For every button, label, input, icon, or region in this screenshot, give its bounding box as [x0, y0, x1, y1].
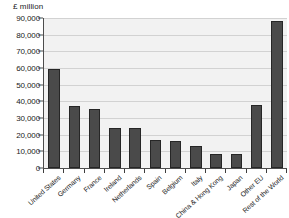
gridline	[44, 35, 287, 36]
y-axis-tick-label: 60,000	[16, 64, 40, 73]
x-axis-tick	[246, 169, 247, 173]
y-axis-tick-label: 90,000	[16, 14, 40, 23]
y-axis-tick-label: 10,000	[16, 147, 40, 156]
bar	[231, 154, 242, 168]
x-axis-tick	[104, 169, 105, 173]
bar	[251, 105, 262, 168]
gridline	[44, 85, 287, 86]
bar	[48, 69, 59, 168]
y-axis-unit-label: £ million	[13, 2, 43, 11]
x-axis-tick-label: Belgium	[160, 174, 183, 196]
gridline	[44, 101, 287, 102]
x-axis-tick-label: France	[82, 174, 102, 193]
bar	[271, 21, 282, 168]
x-axis-tick	[286, 169, 287, 173]
x-axis-tick	[144, 169, 145, 173]
plot-inner	[44, 18, 287, 168]
x-axis-tick	[124, 169, 125, 173]
x-axis-tick-label: United States	[27, 174, 62, 206]
y-axis-tick-label: 80,000	[16, 30, 40, 39]
x-axis-tick	[185, 169, 186, 173]
bar-chart: £ million 010,00020,00030,00040,00050,00…	[0, 0, 289, 218]
x-axis-tick	[43, 169, 44, 173]
y-axis-tick-label: 20,000	[16, 130, 40, 139]
bar	[69, 106, 80, 168]
y-axis-tick-label: 70,000	[16, 47, 40, 56]
x-axis-tick-label: Italy	[190, 174, 204, 187]
bar	[109, 128, 120, 169]
bar	[210, 154, 221, 169]
bar	[190, 146, 201, 168]
x-axis-tick-label: Spain	[145, 174, 163, 191]
y-axis-tick-label: 0	[36, 164, 40, 173]
x-axis-tick	[84, 169, 85, 173]
bar	[129, 128, 140, 168]
x-axis-tick	[165, 169, 166, 173]
y-axis-tick-label: 40,000	[16, 97, 40, 106]
y-axis-tick-label: 30,000	[16, 114, 40, 123]
x-axis-tick	[266, 169, 267, 173]
x-axis-tick	[205, 169, 206, 173]
x-axis-tick	[63, 169, 64, 173]
bar	[170, 141, 181, 168]
x-axis-tick	[225, 169, 226, 173]
bar	[150, 140, 161, 168]
bar	[89, 109, 100, 169]
gridline	[44, 51, 287, 52]
y-axis-tick-label: 50,000	[16, 80, 40, 89]
plot-area	[43, 18, 287, 169]
gridline	[44, 68, 287, 69]
gridline	[44, 18, 287, 19]
